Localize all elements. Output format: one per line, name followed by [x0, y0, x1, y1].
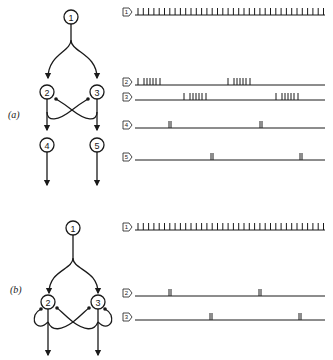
recurrent-inhibition-2: [34, 309, 48, 326]
panel-b: (b) 1 2 3: [10, 221, 112, 355]
node-4: 4: [40, 138, 54, 152]
trace-tag-1: 1: [123, 8, 132, 16]
trace-a-2: [135, 78, 325, 85]
panel-a: (a) 1 2 3 4: [8, 10, 104, 185]
trace-b-2: [135, 289, 325, 296]
inhibitory-synapse-self-3: [103, 307, 107, 311]
node-1: 1: [64, 10, 78, 24]
connection-1-to-3: [71, 40, 97, 78]
node-1-b: 1: [66, 221, 80, 235]
node-5: 5: [90, 138, 104, 152]
trace-tag-2: 2: [123, 78, 132, 86]
connection-1-to-3-b: [73, 258, 98, 293]
panel-a-label: (a): [8, 109, 20, 121]
node-2-b: 2: [41, 295, 55, 309]
svg-text:2: 2: [44, 88, 49, 98]
trace-tag-2: 2: [123, 289, 132, 297]
svg-text:4: 4: [44, 141, 49, 151]
trace-b-1: [135, 223, 325, 230]
trace-a-1: [135, 8, 325, 15]
neural-circuit-figure: (a) 1 2 3 4: [0, 0, 333, 360]
svg-text:2: 2: [45, 298, 50, 308]
trace-tag-1: 1: [123, 223, 132, 231]
svg-text:3: 3: [95, 298, 100, 308]
panel-b-label: (b): [10, 284, 22, 296]
inhibitory-synapse-on-3: [86, 97, 90, 101]
connection-1-to-2: [48, 24, 71, 78]
node-2: 2: [40, 85, 54, 99]
connection-1-to-2-b: [49, 235, 73, 293]
svg-text:1: 1: [70, 224, 75, 234]
trace-a-3: [135, 93, 325, 100]
svg-text:1: 1: [68, 13, 73, 23]
trace-tag-4: 4: [123, 121, 132, 129]
svg-text:3: 3: [94, 88, 99, 98]
inhibitory-synapse-self-2: [39, 307, 43, 311]
trace-a-5: [135, 153, 325, 160]
inhibitory-synapse-on-2-b: [55, 306, 59, 310]
trace-a-4: [135, 121, 325, 128]
trace-tag-3: 3: [123, 93, 132, 101]
inhibitory-synapse-on-2: [54, 97, 58, 101]
trace-b-3: [135, 313, 325, 320]
recurrent-inhibition-3: [98, 309, 112, 326]
node-3-b: 3: [91, 295, 105, 309]
inhibitory-synapse-on-3-b: [87, 306, 91, 310]
node-3: 3: [90, 85, 104, 99]
trace-tag-5: 5: [123, 153, 132, 161]
svg-text:5: 5: [94, 141, 99, 151]
trace-tag-3: 3: [123, 313, 132, 321]
